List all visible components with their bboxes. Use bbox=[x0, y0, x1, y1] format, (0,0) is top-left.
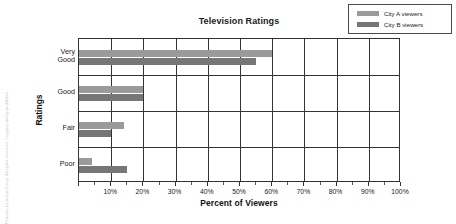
gridline-horizontal bbox=[79, 111, 399, 112]
x-axis-tick-mark bbox=[207, 182, 208, 186]
y-axis-title-wrapper: Ratings bbox=[24, 38, 36, 182]
x-axis-tick-mark bbox=[110, 182, 111, 186]
x-axis-minor-tick bbox=[94, 182, 95, 185]
x-axis-tick-label: 60% bbox=[256, 188, 286, 195]
y-axis-tick-label: Fair bbox=[40, 124, 75, 132]
x-axis-minor-tick bbox=[191, 182, 192, 185]
gridline-vertical bbox=[304, 39, 305, 181]
x-axis-tick-mark bbox=[142, 182, 143, 186]
x-axis-tick-mark bbox=[271, 182, 272, 186]
x-axis-title: Percent of Viewers bbox=[78, 198, 400, 208]
y-axis-tick-labels: VeryGoodGoodFairPoor bbox=[40, 38, 75, 182]
x-axis-minor-tick bbox=[384, 182, 385, 185]
x-axis-tick-label: 50% bbox=[224, 188, 254, 195]
x-axis-tick-label: 90% bbox=[353, 188, 383, 195]
x-axis-ticks: 10%20%30%40%50%60%70%80%90%100% bbox=[78, 182, 400, 198]
copyright-notice: Pearson Learning Group. All rights reser… bbox=[2, 0, 12, 224]
bar-very-good-city-b-viewers bbox=[79, 58, 256, 65]
x-axis-tick-label: 100% bbox=[385, 188, 415, 195]
bar-very-good-city-a-viewers bbox=[79, 50, 272, 57]
bar-poor-city-b-viewers bbox=[79, 166, 127, 173]
plot-area bbox=[78, 38, 400, 182]
x-axis-minor-tick bbox=[287, 182, 288, 185]
legend-swatch-city-b bbox=[357, 22, 379, 27]
x-axis-tick-label: 80% bbox=[321, 188, 351, 195]
x-axis-tick-mark bbox=[239, 182, 240, 186]
x-axis-tick-label: 20% bbox=[127, 188, 157, 195]
y-axis-tick-label: Good bbox=[40, 88, 75, 96]
x-axis-tick-label: 40% bbox=[192, 188, 222, 195]
legend-item-city-a: City A viewers bbox=[357, 9, 451, 18]
bar-fair-city-b-viewers bbox=[79, 130, 111, 137]
gridline-horizontal bbox=[79, 147, 399, 148]
x-axis-minor-tick bbox=[159, 182, 160, 185]
x-axis-minor-tick bbox=[223, 182, 224, 185]
x-axis-tick-mark bbox=[303, 182, 304, 186]
bar-fair-city-a-viewers bbox=[79, 122, 124, 129]
chart-legend: City A viewers City B viewers bbox=[348, 4, 452, 34]
bar-good-city-a-viewers bbox=[79, 86, 143, 93]
x-axis-tick-mark bbox=[78, 182, 79, 186]
y-axis-tick-label: VeryGood bbox=[40, 48, 75, 65]
x-axis-tick-mark bbox=[175, 182, 176, 186]
x-axis-minor-tick bbox=[352, 182, 353, 185]
bar-poor-city-a-viewers bbox=[79, 158, 92, 165]
x-axis-minor-tick bbox=[255, 182, 256, 185]
x-axis-tick-label: 70% bbox=[288, 188, 318, 195]
legend-label-city-a: City A viewers bbox=[384, 9, 423, 18]
gridline-vertical bbox=[272, 39, 273, 181]
gridline-vertical bbox=[337, 39, 338, 181]
x-axis-tick-mark bbox=[400, 182, 401, 186]
legend-label-city-b: City B viewers bbox=[384, 20, 423, 29]
x-axis-tick-label: 10% bbox=[95, 188, 125, 195]
x-axis-tick-mark bbox=[368, 182, 369, 186]
x-axis-minor-tick bbox=[320, 182, 321, 185]
y-axis-tick-label: Poor bbox=[40, 160, 75, 168]
x-axis-tick-mark bbox=[336, 182, 337, 186]
gridline-horizontal bbox=[79, 75, 399, 76]
x-axis-tick-label: 30% bbox=[160, 188, 190, 195]
gridline-vertical bbox=[369, 39, 370, 181]
x-axis-minor-tick bbox=[126, 182, 127, 185]
legend-swatch-city-a bbox=[357, 11, 379, 16]
legend-item-city-b: City B viewers bbox=[357, 20, 451, 29]
bar-good-city-b-viewers bbox=[79, 94, 143, 101]
